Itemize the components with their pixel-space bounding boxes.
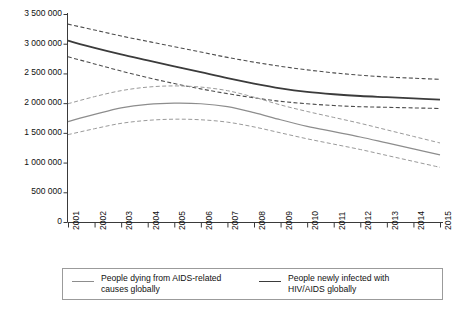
x-axis-tick-label: 2010 [311, 211, 320, 230]
legend-label-deaths-line2: causes globally [101, 284, 160, 294]
x-axis-tick-label: 2002 [99, 211, 108, 230]
legend-label-deaths-line1: People dying from AIDS-related [101, 273, 221, 283]
legend-swatch-infections-icon [259, 277, 281, 286]
x-axis-tick-label: 2013 [391, 211, 400, 230]
x-axis-tick-label: 2003 [125, 211, 134, 230]
legend-swatch-deaths-icon [72, 277, 94, 286]
legend-label-infections: People newly infected withHIV/AIDS globa… [288, 273, 389, 294]
x-axis-tick-label: 2014 [417, 211, 426, 230]
x-axis-tick-label: 2011 [338, 212, 347, 230]
chart-legend: People dying from AIDS-relatedcauses glo… [62, 268, 443, 300]
x-axis-tick-label: 2012 [364, 211, 373, 230]
x-axis-tick-label: 2015 [444, 211, 453, 230]
x-axis-tick-label: 2007 [231, 211, 240, 230]
x-axis-tick-label: 2001 [72, 211, 81, 230]
x-axis-tick-label: 2008 [258, 211, 267, 230]
x-axis-tick-label: 2009 [285, 211, 294, 230]
legend-item-deaths: People dying from AIDS-relatedcauses glo… [72, 273, 262, 297]
legend-label-infections-line1: People newly infected with [288, 273, 389, 283]
legend-label-infections-line2: HIV/AIDS globally [288, 284, 356, 294]
x-axis-tick-label: 2006 [205, 211, 214, 230]
legend-label-deaths: People dying from AIDS-relatedcauses glo… [101, 273, 221, 294]
legend-item-infections: People newly infected withHIV/AIDS globa… [259, 273, 439, 297]
x-axis-tick-label: 2004 [152, 211, 161, 230]
x-axis-tick-label: 2005 [178, 211, 187, 230]
